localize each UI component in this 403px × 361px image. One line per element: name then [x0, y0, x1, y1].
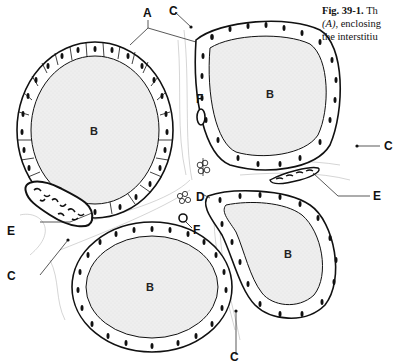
label-F-upper: F — [196, 92, 203, 106]
parafollicular-cells — [177, 160, 209, 203]
label-D: D — [196, 190, 205, 204]
label-C-right: C — [384, 139, 393, 153]
label-C-bottom: C — [230, 350, 239, 361]
caption-ref-A: (A) — [322, 18, 335, 29]
follicle-top-right: B — [195, 21, 340, 170]
figure-caption: Fig. 39-1. Th (A), enclosing the interst… — [322, 4, 403, 43]
label-E-right: E — [373, 189, 381, 203]
label-F-lower: F — [193, 223, 200, 237]
label-C-left: C — [7, 269, 16, 283]
caption-line-1-text: Th — [364, 5, 378, 16]
label-A: A — [143, 6, 152, 20]
label-C-top: C — [169, 4, 178, 18]
caption-line-3: the interstitiu — [322, 30, 403, 43]
caption-line-2-text: , enclosing — [335, 18, 381, 29]
label-B-bottom-left: B — [146, 281, 154, 293]
caption-line-1: Fig. 39-1. Th — [322, 4, 403, 17]
label-B-bottom-right: B — [284, 248, 292, 260]
label-B-top-left: B — [90, 125, 98, 137]
caption-fig-number: Fig. 39-1. — [322, 5, 364, 16]
follicle-bottom-left: B — [72, 222, 232, 352]
caption-line-2: (A), enclosing — [322, 17, 403, 30]
small-vessel-upper — [197, 109, 205, 125]
thyroid-follicle-diagram: B B B — [0, 0, 403, 361]
label-E-left: E — [7, 224, 15, 238]
label-B-top-right: B — [266, 88, 274, 100]
